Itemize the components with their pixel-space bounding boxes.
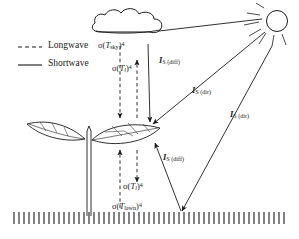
- legend-label-shortwave: Shortwave: [48, 59, 89, 69]
- label-sigma-t-lawn: σ(Tlawn)4: [112, 202, 142, 211]
- exponent-4: 4: [140, 182, 143, 188]
- legend-lines: [0, 0, 299, 239]
- subscript-s-dir: S (dir): [195, 89, 211, 95]
- label-sigma-t-l-upper: σ(Tl)4: [112, 64, 132, 73]
- legend-label-longwave: Longwave: [48, 41, 88, 51]
- subscript-s-dir: S (dir): [233, 113, 249, 119]
- exponent-4: 4: [122, 41, 125, 47]
- exponent-4: 4: [129, 64, 132, 70]
- subscript-lawn: lawn: [124, 205, 136, 211]
- diagram-canvas: Longwave Shortwave σ(Tsky)4 σ(Tl)4 σ(Tl)…: [0, 0, 299, 239]
- label-is-diff-lower: IS (diff): [163, 153, 184, 162]
- subscript-s-diff: S (diff): [162, 59, 180, 65]
- label-is-dir-right: IS (dir): [230, 110, 249, 119]
- label-is-diff-upper: IS (diff): [159, 56, 180, 65]
- exponent-4: 4: [139, 202, 142, 208]
- label-is-dir-upper: IS (dir): [192, 86, 211, 95]
- subscript-s-diff: S (diff): [166, 156, 184, 162]
- label-sigma-t-sky: σ(Tsky)4: [98, 41, 124, 50]
- subscript-sky: sky: [110, 44, 119, 50]
- label-sigma-t-l-lower: σ(Tl)4: [123, 182, 143, 191]
